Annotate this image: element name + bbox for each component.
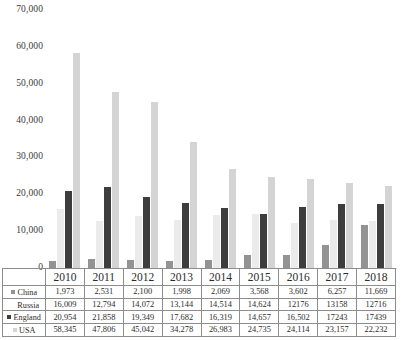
bar-russia bbox=[96, 221, 103, 268]
bar-russia bbox=[213, 215, 220, 268]
table-cell: 14,514 bbox=[201, 298, 240, 311]
table-corner-cell bbox=[3, 269, 46, 286]
y-axis-tick-labels: 70,00060,00050,00040,00030,00020,00010,0… bbox=[0, 0, 43, 272]
table-cell: 13158 bbox=[318, 298, 357, 311]
table-row: USA58,34547,80645,04234,27826,98324,7352… bbox=[3, 323, 396, 336]
table-header-row: 201020112012201320142015201620172018 bbox=[3, 269, 396, 286]
table-cell: 22,232 bbox=[357, 323, 396, 336]
column-header-2015: 2015 bbox=[240, 269, 279, 286]
legend-item-china[interactable]: China bbox=[3, 286, 46, 299]
bar-england bbox=[221, 208, 228, 268]
column-header-2016: 2016 bbox=[279, 269, 318, 286]
bar-china bbox=[88, 259, 95, 268]
bar-group bbox=[279, 10, 318, 268]
bar-russia bbox=[330, 220, 337, 268]
bar-china bbox=[166, 261, 173, 268]
data-table: 201020112012201320142015201620172018Chin… bbox=[2, 268, 396, 337]
table-cell: 47,806 bbox=[84, 323, 123, 336]
bar-england bbox=[377, 204, 384, 268]
y-tick-label: 30,000 bbox=[1, 152, 43, 162]
y-tick-label: 20,000 bbox=[1, 189, 43, 199]
bar-china bbox=[283, 255, 290, 268]
y-tick-label: 40,000 bbox=[1, 116, 43, 126]
table-cell: 14,624 bbox=[240, 298, 279, 311]
bar-groups bbox=[45, 10, 396, 268]
bar-usa bbox=[229, 169, 236, 268]
table-row: England20,95421,85819,34917,68216,31914,… bbox=[3, 311, 396, 324]
bar-group bbox=[357, 10, 396, 268]
table-cell: 11,669 bbox=[357, 286, 396, 299]
table-cell: 12716 bbox=[357, 298, 396, 311]
bar-usa bbox=[112, 92, 119, 268]
column-header-2017: 2017 bbox=[318, 269, 357, 286]
legend-item-russia[interactable]: Russia bbox=[3, 298, 46, 311]
chart-figure: 70,00060,00050,00040,00030,00020,00010,0… bbox=[0, 0, 403, 340]
column-header-2010: 2010 bbox=[46, 269, 85, 286]
table-cell: 3,602 bbox=[279, 286, 318, 299]
table-row: China1,9732,5312,1001,9982,0693,5683,602… bbox=[3, 286, 396, 299]
table-cell: 20,954 bbox=[46, 311, 85, 324]
bar-china bbox=[361, 225, 368, 268]
bar-england bbox=[65, 191, 72, 268]
table-cell: 2,531 bbox=[84, 286, 123, 299]
bar-usa bbox=[268, 177, 275, 268]
table-cell: 6,257 bbox=[318, 286, 357, 299]
bar-england bbox=[182, 203, 189, 268]
plot-area: 70,00060,00050,00040,00030,00020,00010,0… bbox=[0, 0, 403, 272]
column-header-2012: 2012 bbox=[123, 269, 162, 286]
table-cell: 26,983 bbox=[201, 323, 240, 336]
legend-label: USA bbox=[19, 326, 35, 335]
table-cell: 21,858 bbox=[84, 311, 123, 324]
bar-russia bbox=[57, 209, 64, 268]
table-cell: 14,657 bbox=[240, 311, 279, 324]
legend-label: England bbox=[14, 313, 41, 322]
bar-china bbox=[205, 260, 212, 268]
y-tick-label: 10,000 bbox=[1, 226, 43, 236]
legend-label: China bbox=[17, 288, 37, 297]
table-cell: 17,682 bbox=[162, 311, 201, 324]
bar-group bbox=[84, 10, 123, 268]
bar-england bbox=[338, 204, 345, 268]
table-cell: 14,072 bbox=[123, 298, 162, 311]
table-row: Russia16,00912,79414,07213,14414,51414,6… bbox=[3, 298, 396, 311]
legend-swatch-icon bbox=[11, 290, 15, 294]
table-cell: 13,144 bbox=[162, 298, 201, 311]
column-header-2018: 2018 bbox=[357, 269, 396, 286]
table-cell: 17243 bbox=[318, 311, 357, 324]
table-cell: 12176 bbox=[279, 298, 318, 311]
table-cell: 16,319 bbox=[201, 311, 240, 324]
bar-china bbox=[322, 245, 329, 268]
bar-russia bbox=[291, 223, 298, 268]
bar-group bbox=[318, 10, 357, 268]
bar-usa bbox=[73, 53, 80, 268]
table-cell: 24,114 bbox=[279, 323, 318, 336]
bar-group bbox=[123, 10, 162, 268]
column-header-2013: 2013 bbox=[162, 269, 201, 286]
bar-usa bbox=[346, 183, 353, 268]
table-cell: 1,973 bbox=[46, 286, 85, 299]
bar-russia bbox=[135, 216, 142, 268]
table-cell: 1,998 bbox=[162, 286, 201, 299]
data-table-wrapper: 201020112012201320142015201620172018Chin… bbox=[2, 268, 398, 337]
bar-england bbox=[143, 197, 150, 268]
legend-item-england[interactable]: England bbox=[3, 311, 46, 324]
bar-group bbox=[240, 10, 279, 268]
y-tick-label: 60,000 bbox=[1, 42, 43, 52]
bar-usa bbox=[385, 186, 392, 268]
legend-item-usa[interactable]: USA bbox=[3, 323, 46, 336]
table-cell: 2,069 bbox=[201, 286, 240, 299]
table-cell: 12,794 bbox=[84, 298, 123, 311]
y-tick-label: 70,000 bbox=[1, 5, 43, 15]
table-cell: 23,157 bbox=[318, 323, 357, 336]
bar-group bbox=[45, 10, 84, 268]
bar-group bbox=[162, 10, 201, 268]
bar-usa bbox=[307, 179, 314, 268]
table-cell: 58,345 bbox=[46, 323, 85, 336]
bar-russia bbox=[174, 220, 181, 268]
table-cell: 16,009 bbox=[46, 298, 85, 311]
bar-usa bbox=[151, 102, 158, 268]
bar-usa bbox=[190, 142, 197, 268]
legend-label: Russia bbox=[17, 300, 39, 309]
y-tick-label: 50,000 bbox=[1, 79, 43, 89]
bar-england bbox=[260, 214, 267, 268]
